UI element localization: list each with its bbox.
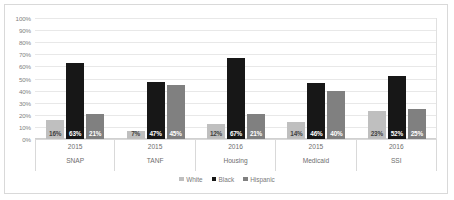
bar-value-label: 21%: [250, 130, 262, 137]
bar-value-label: 46%: [310, 130, 322, 137]
bar-black-housing[interactable]: 67%: [227, 58, 245, 139]
bar-value-label: 12%: [210, 130, 222, 137]
category-cell-medicaid: 2015Medicaid: [276, 140, 356, 171]
y-axis-tick-label: 60%: [19, 63, 31, 70]
category-name-label: SSI: [357, 157, 436, 165]
legend-swatch-icon: [212, 177, 217, 182]
bar-group: 12%67%21%: [196, 18, 276, 139]
bar-value-label: 25%: [411, 130, 423, 137]
category-cell-housing: 2016Housing: [196, 140, 276, 171]
bar-hispanic-medicaid[interactable]: 40%: [327, 91, 345, 139]
category-name-label: TANF: [115, 157, 194, 165]
bar-value-label: 47%: [149, 130, 161, 137]
bar-value-label: 14%: [290, 130, 302, 137]
bar-black-medicaid[interactable]: 46%: [307, 83, 325, 139]
chart-container: 100%90%80%70%60%50%40%30%20%10%0% 16%63%…: [4, 4, 448, 194]
legend-item-white[interactable]: White: [179, 176, 202, 183]
y-axis-tick-label: 100%: [16, 15, 31, 22]
category-year-label: 2015: [276, 143, 355, 151]
legend-label: Black: [219, 176, 235, 183]
category-year-label: 2016: [357, 143, 436, 151]
y-axis: 100%90%80%70%60%50%40%30%20%10%0%: [5, 18, 35, 139]
category-name-label: Medicaid: [276, 157, 355, 165]
category-year-label: 2015: [115, 143, 194, 151]
legend-label: Hispanic: [250, 176, 275, 183]
bar-value-label: 67%: [230, 130, 242, 137]
legend-item-hispanic[interactable]: Hispanic: [243, 176, 275, 183]
bar-black-ssi[interactable]: 52%: [388, 76, 406, 139]
bar-white-snap[interactable]: 16%: [46, 120, 64, 139]
legend-label: White: [186, 176, 202, 183]
bar-black-snap[interactable]: 63%: [66, 63, 84, 139]
y-axis-tick-label: 10%: [19, 123, 31, 130]
bar-white-tanf[interactable]: 7%: [127, 131, 145, 139]
category-year-label: 2016: [196, 143, 275, 151]
chart-legend: WhiteBlackHispanic: [5, 172, 449, 186]
category-name-label: Housing: [196, 157, 275, 165]
bar-group: 14%46%40%: [276, 18, 356, 139]
bar-hispanic-tanf[interactable]: 45%: [167, 85, 185, 139]
legend-item-black[interactable]: Black: [212, 176, 235, 183]
bar-hispanic-housing[interactable]: 21%: [247, 114, 265, 139]
y-axis-tick-label: 40%: [19, 87, 31, 94]
y-axis-tick-label: 50%: [19, 75, 31, 82]
category-name-label: SNAP: [36, 157, 114, 165]
category-axis: 2015SNAP2015TANF2016Housing2015Medicaid2…: [35, 139, 437, 171]
category-cell-tanf: 2015TANF: [115, 140, 195, 171]
bar-hispanic-ssi[interactable]: 25%: [408, 109, 426, 139]
bar-group: 16%63%21%: [35, 18, 115, 139]
bar-value-label: 21%: [89, 130, 101, 137]
bar-value-label: 7%: [131, 130, 140, 137]
y-axis-tick-label: 90%: [19, 27, 31, 34]
bar-value-label: 23%: [371, 130, 383, 137]
bar-value-label: 45%: [169, 130, 181, 137]
bar-group: 7%47%45%: [115, 18, 195, 139]
bar-value-label: 52%: [391, 130, 403, 137]
category-year-label: 2015: [36, 143, 114, 151]
bar-hispanic-snap[interactable]: 21%: [86, 114, 104, 139]
y-axis-tick-label: 20%: [19, 111, 31, 118]
bar-white-ssi[interactable]: 23%: [368, 111, 386, 139]
bar-value-label: 40%: [330, 130, 342, 137]
category-cell-snap: 2015SNAP: [35, 140, 115, 171]
legend-swatch-icon: [179, 177, 184, 182]
y-axis-tick-label: 70%: [19, 51, 31, 58]
legend-swatch-icon: [243, 177, 248, 182]
bar-black-tanf[interactable]: 47%: [147, 82, 165, 139]
plot-area: 16%63%21%7%47%45%12%67%21%14%46%40%23%52…: [35, 18, 437, 139]
bar-value-label: 63%: [69, 130, 81, 137]
category-cell-ssi: 2016SSI: [357, 140, 437, 171]
y-axis-tick-label: 30%: [19, 99, 31, 106]
bar-white-housing[interactable]: 12%: [207, 124, 225, 139]
y-axis-tick-label: 80%: [19, 39, 31, 46]
bar-white-medicaid[interactable]: 14%: [287, 122, 305, 139]
y-axis-tick-label: 0%: [22, 136, 31, 143]
bar-group: 23%52%25%: [357, 18, 437, 139]
bars-layer: 16%63%21%7%47%45%12%67%21%14%46%40%23%52…: [35, 18, 437, 139]
bar-value-label: 16%: [49, 130, 61, 137]
